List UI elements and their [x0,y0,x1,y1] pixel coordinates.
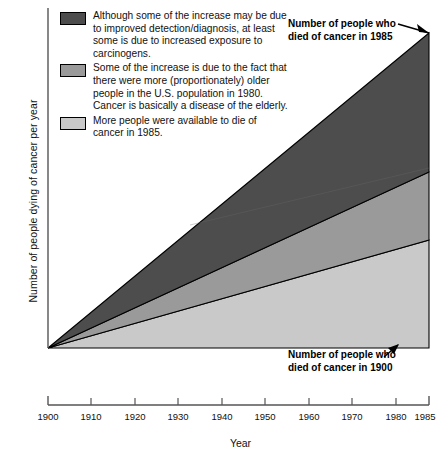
x-axis-tick-label-1985: 1985 [414,411,435,422]
legend-swatch-light [60,117,86,130]
legend-swatch-dark [60,12,86,25]
legend-label-medium: Some of the increase is due to the fact … [93,62,290,112]
annotation-1900-line2: died of cancer in 1900 [288,362,396,375]
legend-item: Some of the increase is due to the fact … [60,62,290,112]
x-axis-tick-label-1950: 1950 [254,411,275,422]
y-axis-title: Number of people dying of cancer per yea… [27,76,39,326]
legend-label-light: More people were available to die of can… [93,115,290,140]
x-axis-tick-label-1970: 1970 [341,411,362,422]
annotation-1900: Number of people who died of cancer in 1… [288,349,396,374]
x-axis-tick-label-1980: 1980 [385,411,406,422]
x-axis-tick-label-1930: 1930 [167,411,188,422]
legend-swatch-medium [60,64,86,77]
x-axis-tick-label-1910: 1910 [80,411,101,422]
x-axis-title: Year [0,437,445,449]
cancer-deaths-area-chart: Although some of the increase may be due… [0,0,445,469]
legend-label-dark: Although some of the increase may be due… [93,10,290,60]
annotation-1900-line1: Number of people who [288,349,396,362]
annotation-1985: Number of people who died of cancer in 1… [288,18,396,43]
annotation-1985-line2: died of cancer in 1985 [288,31,396,44]
x-axis-tick-label-1920: 1920 [124,411,145,422]
legend-item: More people were available to die of can… [60,115,290,140]
chart-legend: Although some of the increase may be due… [60,10,290,142]
x-axis-tick-label-1900: 1900 [37,411,58,422]
annotation-1985-line1: Number of people who [288,18,396,31]
x-axis-title-text: Year [194,437,251,449]
x-axis-tick-label-1940: 1940 [211,411,232,422]
legend-item: Although some of the increase may be due… [60,10,290,60]
x-axis-tick-label-1960: 1960 [298,411,319,422]
x-axis-tick-labels: 1900191019201930194019501960197019801985 [0,411,445,425]
